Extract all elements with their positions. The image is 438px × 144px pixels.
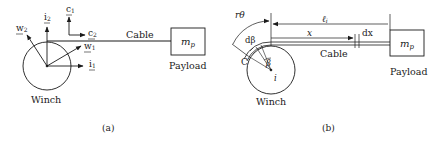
arc-label: rθ bbox=[235, 10, 245, 20]
svg-text:i2: i2 bbox=[44, 12, 51, 22]
mass-label-a: mp bbox=[181, 36, 195, 49]
vector-label-w2: w2 bbox=[16, 23, 28, 34]
dx-label: dx bbox=[362, 28, 373, 38]
mass-label-b: mp bbox=[400, 38, 414, 51]
caption-a: (a) bbox=[102, 123, 114, 133]
figure-a bbox=[23, 17, 205, 90]
dbeta-label: dβ bbox=[245, 35, 255, 45]
cable-label-a: Cable bbox=[126, 29, 154, 40]
svg-text:w2: w2 bbox=[16, 23, 28, 33]
w2-arrow bbox=[27, 35, 47, 66]
winch-cable-diagram: w2 i2 c1 c2 w1 i1 Cable mp Payload Winch… bbox=[0, 0, 438, 144]
contact-label: C bbox=[241, 57, 248, 67]
vector-label-i2: i2 bbox=[44, 12, 51, 23]
beta-label: β bbox=[265, 58, 271, 68]
svg-text:w1: w1 bbox=[84, 41, 96, 51]
x-label: x bbox=[307, 28, 312, 38]
payload-label-b: Payload bbox=[390, 66, 428, 77]
svg-text:i1: i1 bbox=[89, 59, 96, 69]
caption-b: (b) bbox=[322, 123, 335, 133]
svg-text:c1: c1 bbox=[66, 4, 75, 14]
svg-text:c2: c2 bbox=[88, 28, 97, 38]
length-label: ℓi bbox=[322, 14, 328, 24]
payload-label-a: Payload bbox=[169, 60, 207, 71]
center-label: i bbox=[274, 73, 277, 83]
winch-label-b: Winch bbox=[256, 96, 286, 107]
vector-label-w1: w1 bbox=[84, 41, 96, 52]
vector-label-c2: c2 bbox=[88, 28, 97, 39]
vector-label-i1: i1 bbox=[89, 59, 96, 70]
vector-label-c1: c1 bbox=[66, 4, 75, 15]
winch-label-a: Winch bbox=[31, 94, 61, 105]
cable-label-b: Cable bbox=[320, 48, 348, 59]
